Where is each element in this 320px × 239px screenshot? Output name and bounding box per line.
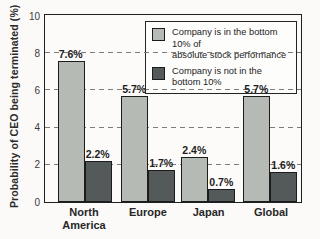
x-axis-category-labels: North AmericaEuropeJapanGlobal <box>44 206 302 236</box>
y-tick-label: 0 <box>26 196 40 207</box>
bar-bottom10-japan <box>181 157 208 202</box>
bar-value-label: 5.7% <box>244 83 268 95</box>
bar-not-bottom10-japan <box>208 189 235 202</box>
ceo-termination-bar-chart: Probability of CEO being terminated (%) … <box>0 0 320 239</box>
x-category-label-global: Global <box>240 206 302 219</box>
bar-group-japan: 2.4%0.7% <box>181 15 235 202</box>
y-tick-label: 4 <box>26 122 40 133</box>
x-category-label-north-america: North America <box>53 206 115 231</box>
bar-group-north-america: 7.6%2.2% <box>58 15 112 202</box>
x-category-label-europe: Europe <box>117 206 179 219</box>
bar-value-label: 5.7% <box>122 83 146 95</box>
bar-value-label: 1.6% <box>271 159 295 171</box>
x-category-label-japan: Japan <box>178 206 240 219</box>
bar-not-bottom10-global <box>270 172 297 202</box>
bar-not-bottom10-europe <box>148 170 175 202</box>
y-tick-label: 8 <box>26 47 40 58</box>
bar-bottom10-north-america <box>58 61 85 202</box>
y-tick-label: 6 <box>26 84 40 95</box>
bar-bottom10-global <box>243 96 270 202</box>
bar-value-label: 2.4% <box>182 144 206 156</box>
y-tick-label: 10 <box>26 10 40 21</box>
bar-bottom10-europe <box>121 96 148 202</box>
bar-group-europe: 5.7%1.7% <box>121 15 175 202</box>
bar-group-global: 5.7%1.6% <box>243 15 297 202</box>
bar-value-label: 0.7% <box>209 176 233 188</box>
y-tick-label: 2 <box>26 159 40 170</box>
bar-not-bottom10-north-america <box>85 161 112 202</box>
y-axis-title: Probability of CEO being terminated (%) <box>8 8 20 208</box>
bar-value-label: 2.2% <box>86 148 110 160</box>
bar-value-label: 7.6% <box>59 48 83 60</box>
plot-area: Company is in the bottom 10% of absolute… <box>44 14 302 203</box>
bar-value-label: 1.7% <box>149 157 173 169</box>
